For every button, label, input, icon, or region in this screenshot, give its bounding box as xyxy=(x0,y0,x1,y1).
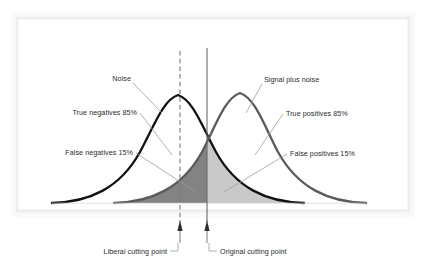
label-true-negatives: True negatives 85% xyxy=(72,108,137,117)
label-liberal-cutting-point: Liberal cutting point xyxy=(104,247,167,256)
label-true-positives: True positives 85% xyxy=(286,109,348,118)
page-background xyxy=(0,0,425,275)
label-noise: Noise xyxy=(112,74,131,83)
label-signal-plus-noise: Signal plus noise xyxy=(264,75,319,84)
label-false-positives: False positives 15% xyxy=(290,149,355,158)
label-original-cutting-point: Original cutting point xyxy=(220,247,287,256)
signal-detection-figure: Noise Signal plus noise True negatives 8… xyxy=(0,0,425,275)
label-false-negatives: False negatives 15% xyxy=(65,148,133,157)
